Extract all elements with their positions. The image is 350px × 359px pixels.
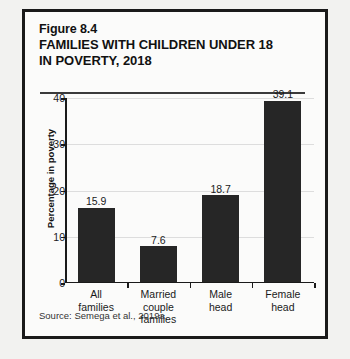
figure-container: Figure 8.4 FAMILIES WITH CHILDREN UNDER … (22, 9, 328, 339)
y-axis-line (65, 98, 67, 283)
x-category-label-line: Married (124, 288, 192, 301)
bar-value-label: 39.1 (258, 88, 308, 100)
x-category-label-line: All (62, 288, 130, 301)
x-category-label: Femalehead (249, 288, 317, 313)
x-category-label-line: Female (249, 288, 317, 301)
x-category-label-line: head (249, 301, 317, 314)
x-category-label: Malehead (187, 288, 255, 313)
plot-area: 15.97.618.739.1 (65, 98, 314, 283)
y-tickmark (61, 283, 65, 285)
source-note: Source: Semega et al., 2019a. (39, 310, 167, 321)
y-tickmark (61, 237, 65, 239)
bar-value-label: 7.6 (133, 234, 183, 246)
figure-title-line-2: IN POVERTY, 2018 (39, 53, 309, 69)
bar (264, 101, 301, 282)
bar (202, 195, 239, 281)
y-tickmark (61, 98, 65, 100)
bar (78, 208, 115, 282)
y-tickmark (61, 144, 65, 146)
bar-value-label: 15.9 (71, 195, 121, 207)
figure-title-block: Figure 8.4 FAMILIES WITH CHILDREN UNDER … (39, 22, 309, 69)
figure-title-line-1: FAMILIES WITH CHILDREN UNDER 18 (39, 37, 309, 53)
x-category-label-line: head (187, 301, 255, 314)
figure-number: Figure 8.4 (39, 22, 309, 37)
x-category-label-line: Male (187, 288, 255, 301)
y-tickmark (61, 191, 65, 193)
bar-chart: Percentage in poverty 010203040 15.97.61… (25, 98, 325, 298)
bar-value-label: 18.7 (196, 183, 246, 195)
bar (140, 246, 177, 281)
